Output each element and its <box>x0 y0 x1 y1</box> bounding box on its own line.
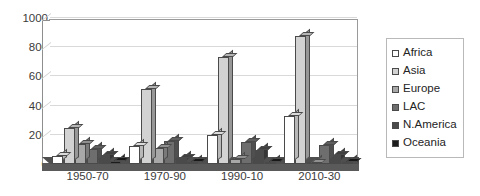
bar <box>187 162 198 164</box>
bar <box>342 162 353 164</box>
x-axis-tick-label: 1990-10 <box>221 170 263 182</box>
bar-chart: 10008006004002000 1950-701970-901990-102… <box>0 0 480 196</box>
bar <box>307 163 318 165</box>
bar-top <box>79 140 94 144</box>
bar-group <box>207 18 276 164</box>
bar-top <box>91 145 106 149</box>
legend-item: N.America <box>392 116 457 134</box>
bar-face <box>284 116 295 164</box>
chart-legend: AfricaAsiaEuropeLACN.AmericaOceania <box>386 38 464 158</box>
legend-item-label: Africa <box>403 47 432 59</box>
bar-group <box>52 18 121 164</box>
bar-side <box>229 50 233 160</box>
bar-top <box>299 32 314 36</box>
bar <box>64 128 75 164</box>
bar-top <box>245 138 260 142</box>
bar-top <box>323 141 338 145</box>
bar-side <box>295 109 299 160</box>
bar <box>207 135 218 164</box>
bar-face <box>187 162 198 164</box>
bar-face <box>64 128 75 164</box>
bar <box>284 116 295 164</box>
bar-top <box>346 158 361 162</box>
bar-top <box>334 151 349 155</box>
bar-top <box>168 137 183 141</box>
bar-top <box>145 85 160 89</box>
bar-top <box>180 154 195 158</box>
bar-top <box>68 124 83 128</box>
bar-face <box>110 161 121 164</box>
legend-swatch-icon <box>392 104 399 111</box>
bar-face <box>342 162 353 164</box>
bar <box>110 161 121 164</box>
bar-face <box>129 146 140 164</box>
y-axis: 10008006004002000 <box>0 0 48 196</box>
chart-left-wall <box>42 20 50 166</box>
bar <box>230 159 241 164</box>
x-axis: 1950-701970-901990-102010-30 <box>49 170 358 192</box>
bar-top <box>222 53 237 57</box>
bar-face <box>230 159 241 164</box>
legend-item-label: N.America <box>403 119 457 131</box>
bar-face <box>265 162 276 164</box>
bar-face <box>52 156 63 164</box>
bar-group <box>284 18 353 164</box>
bar-top <box>103 151 118 155</box>
legend-swatch-icon <box>392 68 399 75</box>
x-axis-tick-label: 2010-30 <box>298 170 340 182</box>
bar <box>265 162 276 164</box>
legend-item: LAC <box>392 98 457 116</box>
legend-swatch-icon <box>392 86 399 93</box>
bar-group <box>129 18 198 164</box>
legend-item-label: Asia <box>403 65 425 77</box>
x-axis-tick-label: 1950-70 <box>67 170 109 182</box>
bar <box>52 156 63 164</box>
legend-item: Africa <box>392 44 457 62</box>
legend-item: Oceania <box>392 134 457 152</box>
legend-swatch-icon <box>392 140 399 147</box>
bar <box>129 146 140 164</box>
legend-swatch-icon <box>392 50 399 57</box>
legend-swatch-icon <box>392 122 399 129</box>
bar <box>176 158 187 164</box>
legend-item: Asia <box>392 62 457 80</box>
bar-side <box>152 82 156 160</box>
bar-top <box>257 146 272 150</box>
bar-side <box>306 28 310 160</box>
legend-item-label: Oceania <box>403 137 446 149</box>
legend-item-label: LAC <box>403 101 425 113</box>
x-axis-tick-label: 1970-90 <box>144 170 186 182</box>
bar-face <box>207 135 218 164</box>
plot-area <box>49 19 358 165</box>
bar-face <box>176 158 187 164</box>
legend-item: Europe <box>392 80 457 98</box>
legend-item-label: Europe <box>403 83 440 95</box>
